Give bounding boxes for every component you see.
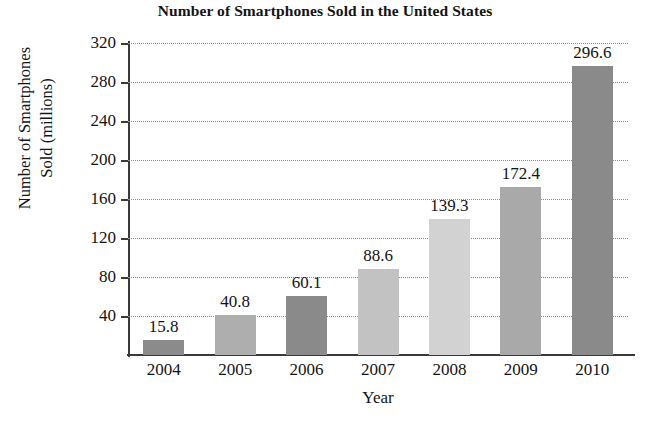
bar-value-label: 139.3 (430, 196, 468, 216)
y-axis-tick-mark (121, 238, 128, 240)
bar: 88.6 (358, 269, 399, 355)
bar: 15.8 (143, 340, 184, 355)
y-axis-tick-mark (121, 199, 128, 201)
plot-area: 4080120160200240280320 15.840.860.188.61… (128, 43, 628, 355)
y-axis-tick-label: 200 (91, 150, 117, 170)
y-axis-tick-mark (121, 277, 128, 279)
x-axis-tick-label: 2006 (290, 360, 324, 380)
x-axis-tick-label: 2010 (575, 360, 609, 380)
bar-value-label: 15.8 (149, 317, 179, 337)
gridline (128, 160, 628, 161)
y-axis-tick-label: 160 (91, 189, 117, 209)
x-axis-title: Year (128, 388, 628, 408)
y-axis-title: Number of Smartphones Sold (millions) (14, 0, 70, 258)
gridline (128, 238, 628, 239)
bar-value-label: 296.6 (573, 43, 611, 63)
bar: 296.6 (572, 66, 613, 355)
y-axis-tick-label: 80 (99, 267, 116, 287)
y-axis-tick-label: 240 (91, 111, 117, 131)
x-axis-tick-label: 2009 (504, 360, 538, 380)
bar-chart-figure: Number of Smartphones Sold in the United… (0, 0, 650, 421)
bar-value-label: 60.1 (292, 273, 322, 293)
gridline (128, 121, 628, 122)
gridline (128, 43, 628, 44)
x-axis-tick-label: 2008 (432, 360, 466, 380)
y-axis-title-line-1: Number of Smartphones (14, 0, 36, 258)
gridline (128, 82, 628, 83)
y-axis-tick-label: 280 (91, 72, 117, 92)
x-axis-tick-label: 2004 (147, 360, 181, 380)
y-axis-tick-label: 120 (91, 228, 117, 248)
gridline (128, 199, 628, 200)
x-axis-tick-label: 2007 (361, 360, 395, 380)
bar-value-label: 40.8 (220, 292, 250, 312)
bar: 139.3 (429, 219, 470, 355)
y-axis-tick-label: 320 (91, 33, 117, 53)
y-axis-title-line-2: Sold (millions) (36, 0, 58, 258)
bar-value-label: 172.4 (502, 164, 540, 184)
y-axis-tick-mark (121, 82, 128, 84)
y-axis-tick-mark (121, 160, 128, 162)
y-axis-tick-label: 40 (99, 306, 116, 326)
bar: 60.1 (286, 296, 327, 355)
y-axis-tick-mark (121, 316, 128, 318)
bar: 172.4 (500, 187, 541, 355)
y-axis-tick-mark (121, 43, 128, 45)
chart-title: Number of Smartphones Sold in the United… (0, 2, 650, 20)
y-axis-tick-mark (121, 121, 128, 123)
bar: 40.8 (215, 315, 256, 355)
bar-value-label: 88.6 (363, 246, 393, 266)
x-axis-tick-label: 2005 (218, 360, 252, 380)
